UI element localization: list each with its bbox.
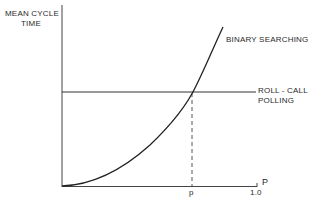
y-axis-label: MEAN CYCLE TIME <box>5 9 57 29</box>
roll-call-label-line1: ROLL - CALL <box>258 86 308 96</box>
y-axis-label-line2: TIME <box>5 19 57 29</box>
binary-searching-label: BINARY SEARCHING <box>226 35 308 45</box>
roll-call-polling-label: ROLL - CALL POLLING <box>258 86 308 106</box>
binary-searching-curve <box>62 27 223 186</box>
roll-call-label-line2: POLLING <box>258 96 308 106</box>
x-tick-p: p <box>189 188 194 198</box>
x-tick-1: 1.0 <box>250 188 262 198</box>
x-axis-label: P <box>262 177 268 187</box>
y-axis-label-line1: MEAN CYCLE <box>5 9 57 19</box>
